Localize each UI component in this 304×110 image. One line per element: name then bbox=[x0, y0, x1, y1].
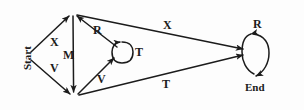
edge-end-self-loop-right bbox=[253, 34, 269, 76]
node-label-end: End bbox=[245, 82, 265, 93]
edge-end-self-loop-left bbox=[242, 34, 254, 74]
edge-label-start-bottom: V bbox=[50, 62, 59, 74]
edge-label-start-top: X bbox=[50, 36, 59, 48]
edge-label-top-end: X bbox=[163, 19, 172, 31]
edge-bottom-middle bbox=[78, 58, 114, 94]
edge-label-top-bottom: M bbox=[63, 49, 74, 61]
edge-label-middle-self: T bbox=[135, 46, 143, 58]
edge-label-bottom-middle: V bbox=[97, 73, 106, 85]
edge-label-bottom-end: T bbox=[162, 78, 170, 90]
edge-label-end-self: R bbox=[253, 18, 262, 30]
state-transition-diagram: Start End X V M R V T X T R bbox=[0, 0, 304, 110]
node-label-start: Start bbox=[22, 46, 33, 70]
edge-label-middle-top: R bbox=[93, 24, 102, 36]
